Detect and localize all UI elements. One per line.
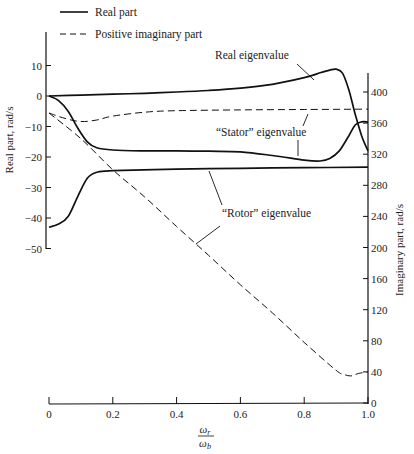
right-axis-title: Imaginary part, rad/s <box>393 204 405 296</box>
legend-real-part: Real part <box>95 6 138 19</box>
legend-imaginary-part: Positive imaginary part <box>95 28 203 41</box>
right-axis: 40036032028024020016012080400 Imaginary … <box>363 73 405 409</box>
right-tick-label: 40 <box>371 366 383 378</box>
stator-eigenvalue-real-part-curve <box>49 96 368 161</box>
left-tick-label: −40 <box>25 212 43 224</box>
right-tick-label: 120 <box>371 304 388 316</box>
real-eigenvalue-real-part-curve <box>49 69 368 151</box>
legend: Real part Positive imaginary part <box>60 6 203 41</box>
left-axis-title: Real part, rad/s <box>3 107 15 174</box>
right-tick-label: 280 <box>371 179 388 191</box>
left-axis: 100−10−20−30−40−50 Real part, rad/s <box>3 32 51 255</box>
right-tick-label: 360 <box>371 117 388 129</box>
x-tick-label: 0.8 <box>297 408 311 420</box>
left-tick-label: −30 <box>25 182 43 194</box>
svg-text:ωb: ωb <box>199 437 211 451</box>
svg-text:ωr: ωr <box>200 423 212 437</box>
left-tick-label: 0 <box>37 90 43 102</box>
eigenvalue-chart: Real part Positive imaginary part 100−10… <box>0 0 414 454</box>
annotation-real-eigenvalue: Real eigenvalue <box>215 49 289 62</box>
right-tick-label: 80 <box>371 335 383 347</box>
x-tick-label: 1.0 <box>361 408 375 420</box>
right-tick-label: 160 <box>371 273 388 285</box>
stator-eigenvalue-imaginary-part-curve <box>49 109 368 121</box>
left-tick-label: −20 <box>25 151 43 163</box>
left-tick-label: −50 <box>25 243 43 255</box>
x-tick-label: 0.6 <box>234 408 248 420</box>
right-tick-label: 240 <box>371 210 388 222</box>
left-tick-label: 10 <box>31 60 43 72</box>
right-tick-label: 400 <box>371 86 388 98</box>
annotation-stator-eigenvalue: “Stator” eigenvalue <box>216 126 306 139</box>
x-axis: 00.20.40.60.81.0 ωr ωb <box>46 397 375 451</box>
x-tick-label: 0 <box>46 408 52 420</box>
x-axis-title: ωr ωb <box>198 423 214 451</box>
annotations: Real eigenvalue “Stator” eigenvalue “Rot… <box>196 49 314 244</box>
x-tick-label: 0.4 <box>170 408 184 420</box>
plot-area <box>49 69 368 376</box>
left-tick-label: −10 <box>25 121 43 133</box>
x-tick-label: 0.2 <box>106 408 120 420</box>
right-tick-label: 320 <box>371 148 388 160</box>
rotor-eigenvalue-real-part-curve <box>49 167 368 227</box>
right-tick-label: 200 <box>371 242 388 254</box>
annotation-rotor-eigenvalue: “Rotor” eigenvalue <box>222 207 311 220</box>
rotor-eigenvalue-imaginary-part-curve <box>49 113 368 376</box>
